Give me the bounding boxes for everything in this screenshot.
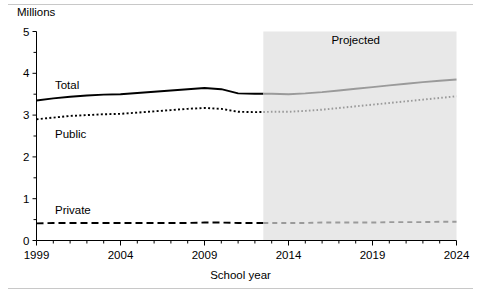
chart-figure: Millions 012345 199920042009201420192024… xyxy=(0,0,481,295)
y-tick-label: 1 xyxy=(8,193,30,205)
x-tick-label: 2024 xyxy=(433,249,481,261)
y-tick-label: 2 xyxy=(8,151,30,163)
x-tick-label: 2014 xyxy=(265,249,313,261)
y-tick-label: 0 xyxy=(8,235,30,247)
projected-shading xyxy=(263,32,456,241)
chart-plot-area xyxy=(0,0,481,295)
series-line-private-historical xyxy=(37,223,264,224)
series-label-private: Private xyxy=(55,204,91,216)
y-tick-label: 5 xyxy=(8,26,30,38)
projected-region-rect xyxy=(263,32,456,241)
projected-label: Projected xyxy=(316,34,396,46)
x-tick-label: 2019 xyxy=(349,249,397,261)
y-tick-label: 4 xyxy=(8,67,30,79)
series-label-public: Public xyxy=(55,128,86,140)
x-tick-label: 2009 xyxy=(181,249,229,261)
x-tick-label: 2004 xyxy=(97,249,145,261)
x-tick-label: 1999 xyxy=(13,249,61,261)
series-line-public-historical xyxy=(37,108,264,119)
x-axis-title: School year xyxy=(0,269,481,282)
series-label-total: Total xyxy=(55,79,79,91)
y-tick-label: 3 xyxy=(8,109,30,121)
